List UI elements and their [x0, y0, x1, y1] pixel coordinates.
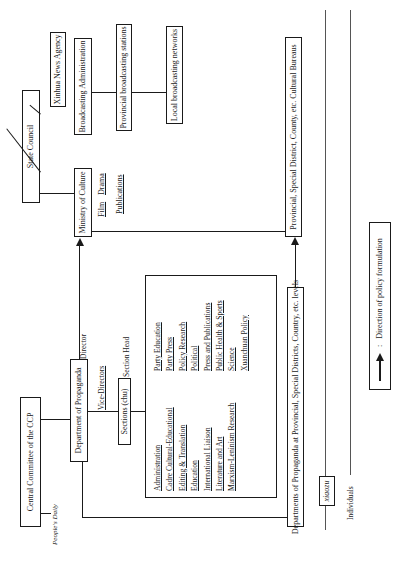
- film-label: Film: [98, 202, 106, 217]
- connector-propaganda-provincial-v: [82, 517, 287, 518]
- director-label: Director: [80, 334, 88, 359]
- section-item: Policy Research: [177, 300, 189, 371]
- arrow-propaganda-ministry-shaft: [79, 245, 80, 359]
- cultural-bureaus-box: Provincial, Special District, County, et…: [285, 37, 302, 237]
- connector-state-council-ministry: [40, 193, 74, 194]
- vice-directors-label: Vice-Directors: [98, 366, 106, 410]
- dept-propaganda-box: Department of Propaganda: [70, 359, 88, 462]
- xinhua-label: Xinhua News Agency: [54, 34, 62, 104]
- xinhua-news-agency-box: Xinhua News Agency: [50, 32, 66, 107]
- connector-cc-propaganda: [41, 419, 70, 420]
- divider-line-2: [350, 10, 351, 475]
- legend-label: Direction of policy formulation: [376, 238, 384, 339]
- peoples-daily-label: People's Daily: [52, 504, 59, 545]
- sections-chu-label: Sections (chu): [121, 389, 129, 435]
- xiaozu-box: xiaozu: [319, 476, 335, 506]
- section-item: Education: [189, 403, 201, 491]
- section-item: Party Education: [152, 300, 164, 371]
- section-head-label: Section Head: [123, 337, 131, 377]
- individuals-label: Individuals: [347, 486, 355, 520]
- section-item: Party Press: [164, 300, 176, 371]
- connector-ministry-bureaus: [92, 231, 285, 232]
- connector-broadcast-chain: [92, 92, 116, 93]
- legend-arrow-icon: [376, 353, 384, 361]
- section-item: Marxism-Leninism Research: [226, 403, 238, 491]
- section-item: Cadre Cultural-Educational: [164, 403, 176, 491]
- connector-propaganda-provincial-top: [82, 462, 83, 518]
- broadcasting-administration-box: Broadcasting Administration: [74, 38, 92, 135]
- legend-box: : Direction of policy formulation: [369, 222, 391, 390]
- arrow-provincial-bureaus-head: [291, 237, 299, 245]
- ministry-of-culture-box: Ministry of Culture: [74, 168, 92, 237]
- drama-label: Drama: [98, 173, 106, 195]
- dept-propaganda-label: Department of Propaganda: [75, 367, 83, 453]
- arrow-provincial-bureaus-shaft: [295, 245, 296, 287]
- connector-sections-list: [131, 411, 145, 412]
- arrow-propaganda-ministry-head: [76, 238, 84, 246]
- provincial-broadcasting-label: Provincial broadcasting stations: [120, 26, 128, 128]
- central-committee-box: Central Committee of the CCP: [20, 397, 41, 527]
- xiaozu-label: xiaozu: [323, 481, 331, 502]
- divider-line-1: [325, 10, 326, 530]
- connector-propaganda-sections: [88, 411, 118, 412]
- section-item: Science: [226, 300, 238, 371]
- section-item: Public Health & Sports: [214, 300, 226, 371]
- section-item: Press and Publications: [202, 300, 214, 371]
- local-broadcasting-label: Local broadcasting networks: [171, 29, 179, 121]
- section-item: Editing & Translation: [177, 403, 189, 491]
- connector-cc-peoples-daily: [41, 513, 51, 514]
- local-broadcasting-box: Local broadcasting networks: [166, 26, 183, 124]
- section-item: Administration: [152, 403, 164, 491]
- provincial-propaganda-box: Departments of Propaganda at Provincial,…: [287, 287, 304, 527]
- ministry-label: Ministry of Culture: [79, 171, 87, 233]
- legend-arrow-shaft: [379, 361, 380, 381]
- org-chart-diagram: State Council Xinhua News Agency Broadca…: [0, 0, 393, 580]
- broadcasting-admin-label: Broadcasting Administration: [79, 40, 87, 132]
- cultural-bureaus-label: Provincial, Special District, County, et…: [290, 44, 298, 229]
- legend-separator: :: [376, 345, 384, 347]
- sections-left-list: Administration Cadre Cultural-Educationa…: [152, 403, 239, 491]
- provincial-propaganda-label: Departments of Propaganda at Provincial,…: [292, 280, 300, 534]
- section-item: Xuanchuan Policy: [239, 300, 251, 371]
- sections-list-box: Administration Cadre Cultural-Educationa…: [145, 275, 277, 498]
- publications-label: Publications: [116, 174, 124, 214]
- section-item: International Liaison: [202, 403, 214, 491]
- section-item: Political: [189, 300, 201, 371]
- sections-chu-box: Sections (chu): [118, 378, 131, 445]
- sections-right-list: Party Education Party Press Policy Resea…: [152, 300, 251, 371]
- section-item: Literature and Art: [214, 403, 226, 491]
- provincial-broadcasting-box: Provincial broadcasting stations: [116, 24, 132, 131]
- connector-provincial-local: [132, 92, 166, 93]
- central-committee-label: Central Committee of the CCP: [27, 413, 35, 512]
